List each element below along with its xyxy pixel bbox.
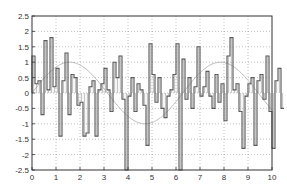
x-tick-label: 10 [268, 173, 277, 182]
x-tick-label: 8 [222, 173, 227, 182]
x-axis-ticks: 012345678910 [30, 167, 277, 182]
y-tick-label: -1.5 [15, 135, 29, 144]
y-tick-label: 2 [25, 27, 30, 36]
y-tick-label: 1.5 [18, 43, 30, 52]
x-tick-label: 4 [126, 173, 131, 182]
y-tick-label: 1 [25, 58, 30, 67]
x-tick-label: 1 [54, 173, 59, 182]
x-tick-label: 2 [78, 173, 83, 182]
y-tick-label: -2 [22, 151, 30, 160]
y-tick-label: -0.5 [15, 104, 29, 113]
y-tick-label: 2.5 [18, 12, 30, 21]
x-tick-label: 5 [150, 173, 155, 182]
y-tick-label: 0 [25, 89, 30, 98]
x-tick-label: 7 [198, 173, 203, 182]
x-tick-label: 6 [174, 173, 179, 182]
y-tick-label: -2.5 [15, 166, 29, 175]
x-tick-label: 9 [246, 173, 251, 182]
x-tick-label: 3 [102, 173, 107, 182]
y-tick-label: 0.5 [18, 74, 30, 83]
x-tick-label: 0 [30, 173, 35, 182]
stairs-series [32, 38, 284, 170]
y-tick-label: -1 [22, 120, 30, 129]
stairs-chart: 012345678910 2.521.510.50-0.5-1-1.5-2-2.… [0, 0, 287, 189]
